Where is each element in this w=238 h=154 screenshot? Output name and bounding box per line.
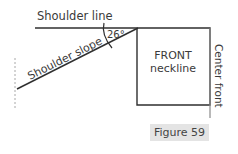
shoulder-slope-label: Shoulder slope <box>26 34 105 82</box>
front-neckline-label-line1: FRONT <box>154 49 192 62</box>
angle-label: 26° <box>107 29 125 40</box>
figure-caption: Figure 59 <box>150 124 209 141</box>
center-front-label: Center front <box>213 44 225 108</box>
front-neckline-label-line2: neckline <box>150 62 196 75</box>
shoulder-line-label: Shoulder line <box>37 9 113 23</box>
